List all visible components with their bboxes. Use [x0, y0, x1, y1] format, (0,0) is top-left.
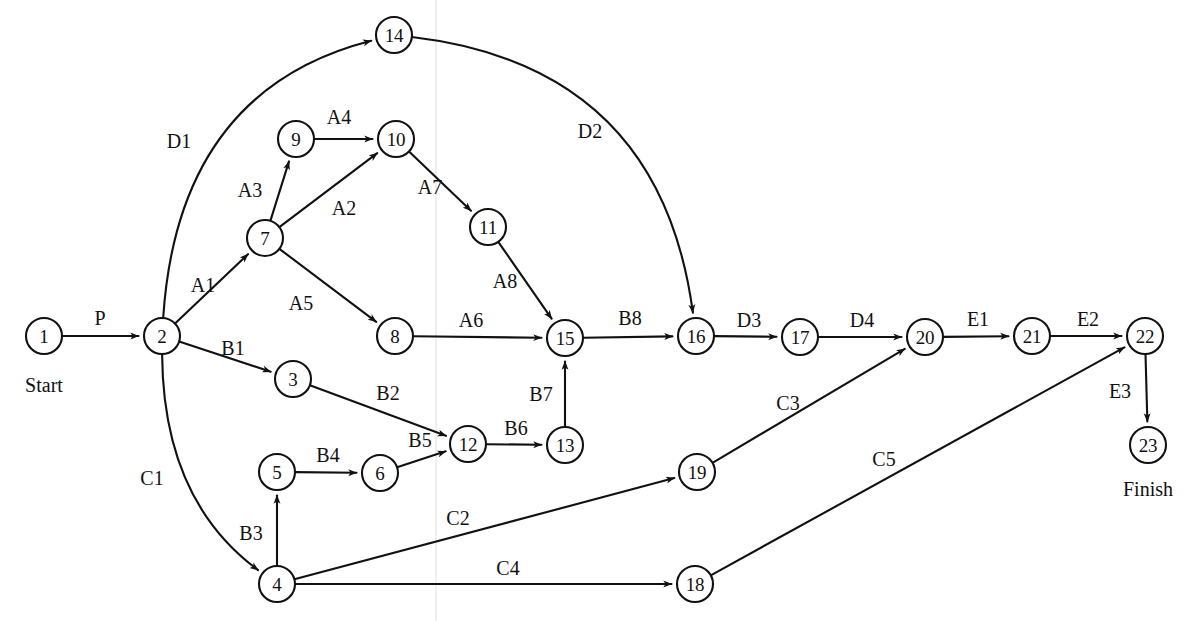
network-diagram-canvas: 1234567891011121314151617181920212223 PD…: [0, 0, 1194, 621]
node-label-16: 16: [687, 326, 706, 347]
edge-label-a8: A8: [493, 270, 517, 292]
edge-path: [712, 349, 904, 463]
edge-label-c4: C4: [496, 557, 519, 579]
node-label-11: 11: [479, 217, 497, 238]
edge-label-b3: B3: [239, 522, 262, 544]
node-6[interactable]: 6: [362, 455, 398, 491]
node-17[interactable]: 17: [782, 319, 818, 355]
edge-a3: [270, 161, 289, 220]
edge-label-layer: PD1A1B1C1A3A2A5A4A7A8A6D2B2B3B4B5B6B7B8D…: [94, 106, 1131, 579]
edge-label-b7: B7: [529, 383, 552, 405]
node-23[interactable]: 23: [1130, 427, 1166, 463]
node-16[interactable]: 16: [678, 318, 714, 354]
edge-label-d3: D3: [737, 309, 761, 331]
node-label-19: 19: [688, 462, 707, 483]
node-3[interactable]: 3: [275, 361, 311, 397]
node-13[interactable]: 13: [547, 427, 583, 463]
edge-d3: [714, 336, 777, 337]
node-label-1: 1: [39, 326, 48, 347]
node-12[interactable]: 12: [450, 426, 486, 462]
network-diagram-svg: 1234567891011121314151617181920212223 PD…: [0, 0, 1194, 621]
edge-label-a1: A1: [191, 274, 215, 296]
edge-label-a3: A3: [238, 179, 262, 201]
edge-label-b5: B5: [408, 429, 431, 451]
node-label-21: 21: [1023, 326, 1042, 347]
node-8[interactable]: 8: [377, 318, 413, 354]
edge-label-c5: C5: [872, 448, 895, 470]
node-11[interactable]: 11: [470, 209, 506, 245]
node-label-4: 4: [272, 574, 282, 595]
edge-b6: [486, 444, 542, 445]
terminal-label-layer: StartFinish: [25, 374, 1173, 500]
edge-path: [270, 161, 289, 220]
edge-path: [397, 451, 446, 467]
edge-label-a5: A5: [289, 292, 313, 314]
edge-path: [295, 472, 357, 473]
edge-b5: [397, 451, 446, 467]
node-label-2: 2: [157, 326, 166, 347]
edge-b8: [583, 336, 673, 337]
edge-c2: [294, 478, 674, 579]
node-label-18: 18: [686, 574, 705, 595]
node-label-14: 14: [385, 25, 404, 46]
node-9[interactable]: 9: [278, 121, 314, 157]
node-label-15: 15: [556, 328, 575, 349]
node-label-3: 3: [288, 369, 297, 390]
node-19[interactable]: 19: [679, 454, 715, 490]
node-label-7: 7: [260, 228, 269, 249]
edge-label-a2: A2: [332, 197, 356, 219]
node-label-17: 17: [791, 327, 810, 348]
node-22[interactable]: 22: [1127, 318, 1163, 354]
node-label-10: 10: [387, 129, 406, 150]
edge-b4: [295, 472, 357, 473]
node-label-8: 8: [390, 326, 399, 347]
node-label-9: 9: [291, 129, 300, 150]
node-label-22: 22: [1136, 326, 1155, 347]
edge-label-p: P: [94, 307, 105, 329]
start-terminal: Start: [25, 374, 63, 396]
node-7[interactable]: 7: [247, 220, 283, 256]
edge-label-d4: D4: [850, 309, 874, 331]
node-4[interactable]: 4: [259, 566, 295, 602]
node-5[interactable]: 5: [259, 454, 295, 490]
edge-path: [714, 336, 777, 337]
edge-label-d2: D2: [578, 120, 602, 142]
edge-label-c2: C2: [446, 507, 469, 529]
edge-label-e2: E2: [1077, 308, 1099, 330]
edge-c5: [711, 347, 1125, 575]
edge-e1: [943, 336, 1009, 337]
node-label-20: 20: [916, 327, 935, 348]
edge-e3: [1146, 354, 1148, 422]
node-10[interactable]: 10: [378, 121, 414, 157]
node-label-23: 23: [1139, 435, 1158, 456]
edge-label-e3: E3: [1109, 380, 1131, 402]
node-20[interactable]: 20: [907, 319, 943, 355]
node-15[interactable]: 15: [547, 320, 583, 356]
edge-path: [294, 478, 674, 579]
edge-path: [412, 37, 693, 313]
edge-path: [943, 336, 1009, 337]
finish-terminal: Finish: [1123, 478, 1173, 500]
edge-a2: [279, 153, 377, 227]
node-1[interactable]: 1: [26, 318, 62, 354]
edge-label-c1: C1: [140, 467, 163, 489]
edge-label-b6: B6: [504, 417, 527, 439]
node-2[interactable]: 2: [144, 318, 180, 354]
edge-path: [413, 336, 542, 338]
node-14[interactable]: 14: [376, 17, 412, 53]
edge-d2: [412, 37, 693, 313]
node-21[interactable]: 21: [1014, 318, 1050, 354]
edge-label-b4: B4: [316, 444, 339, 466]
edge-label-a6: A6: [459, 309, 483, 331]
edge-label-c3: C3: [776, 392, 799, 414]
node-18[interactable]: 18: [677, 566, 713, 602]
edge-path: [583, 336, 673, 337]
node-label-12: 12: [459, 434, 478, 455]
edge-label-d1: D1: [167, 130, 191, 152]
edge-label-e1: E1: [967, 308, 989, 330]
edge-path: [279, 153, 377, 227]
edge-label-a7: A7: [418, 176, 442, 198]
edge-path: [1146, 354, 1148, 422]
edge-label-a4: A4: [327, 106, 351, 128]
edge-c3: [712, 349, 904, 463]
